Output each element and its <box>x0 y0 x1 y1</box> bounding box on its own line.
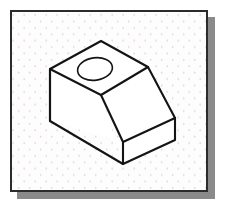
figure-canvas <box>0 0 225 212</box>
isometric-drawing-figure <box>0 0 225 212</box>
